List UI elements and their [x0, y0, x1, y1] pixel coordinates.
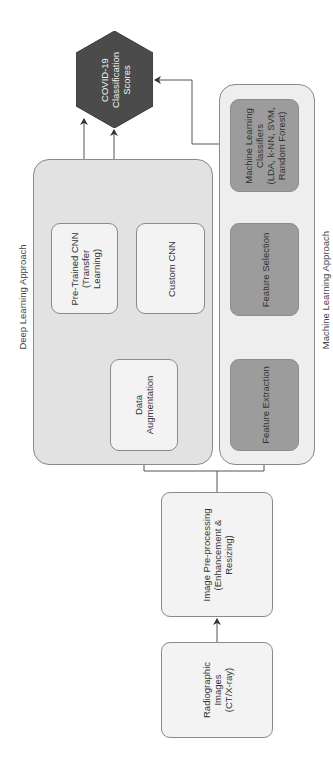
node-text: Scores [120, 52, 131, 108]
pretrained-cnn-node: Pre-Trained CNN (Transfer Learning) [51, 223, 118, 314]
node-text: Data [133, 376, 144, 435]
feature-selection-node: Feature Selection [230, 223, 299, 316]
node-text: Images [212, 662, 223, 718]
node-text: COVID-19 [98, 52, 109, 108]
node-text: Augmentation [144, 376, 155, 435]
node-text: (LDA, k-NN, SVM, [265, 107, 276, 184]
radiographic-images-node: Radiographic Images (CT/X-ray) [161, 642, 273, 738]
node-text: Pre-Trained CNN [68, 232, 79, 305]
node-text: (Enhancement & [212, 508, 223, 601]
custom-cnn-node: Custom CNN [136, 223, 205, 314]
node-text: Feature Extraction [259, 366, 270, 444]
ml-classifiers-node: Machine Learning Classifiers (LDA, k-NN,… [230, 99, 299, 192]
data-augmentation-node: Data Augmentation [110, 359, 178, 451]
node-text: Classifiers [254, 107, 265, 184]
node-text: (Transfer [79, 232, 90, 305]
node-text: (CT/X-ray) [223, 662, 234, 718]
node-text: Machine Learning [243, 107, 254, 184]
node-text: Classification [109, 52, 120, 108]
image-preprocessing-node: Image Pre-processing (Enhancement & Resi… [161, 492, 273, 617]
node-text: Custom CNN [165, 241, 176, 297]
machine-learning-group-label: Machine Learning Approach [320, 231, 331, 349]
node-text: Image Pre-processing [201, 508, 212, 601]
covid-classification-output-node: COVID-19 Classification Scores [76, 31, 153, 128]
node-text: Feature Selection [259, 232, 270, 306]
node-text: Random Forest) [276, 107, 287, 184]
deep-learning-group-label: Deep Learning Approach [17, 244, 28, 349]
feature-extraction-node: Feature Extraction [230, 359, 299, 451]
node-text: Learning) [90, 232, 101, 305]
node-text: Radiographic [201, 662, 212, 718]
node-text: Resizing) [223, 508, 234, 601]
